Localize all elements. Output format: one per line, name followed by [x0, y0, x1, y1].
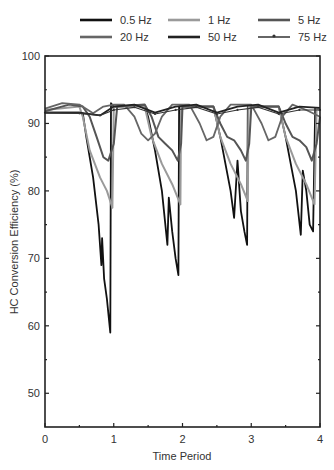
x-tick-label: 2: [179, 433, 185, 445]
x-tick-label: 0: [42, 433, 48, 445]
series-marker: [278, 113, 280, 115]
series-marker: [257, 106, 259, 108]
series-marker: [99, 114, 101, 116]
series-marker: [195, 106, 197, 108]
legend-item: 75 Hz: [258, 31, 327, 43]
legend: 0.5 Hz1 Hz5 Hz20 Hz50 Hz75 Hz: [80, 14, 327, 43]
legend-item: 5 Hz: [258, 14, 321, 26]
legend-label: 75 Hz: [298, 31, 327, 43]
x-tick-label: 1: [111, 433, 117, 445]
series-marker: [175, 109, 177, 111]
legend-item: 0.5 Hz: [80, 14, 152, 26]
legend-item: 50 Hz: [168, 31, 237, 43]
legend-label: 0.5 Hz: [120, 14, 152, 26]
legend-item: 1 Hz: [168, 14, 231, 26]
legend-label: 50 Hz: [208, 31, 237, 43]
series-marker: [78, 112, 80, 114]
y-tick-label: 100: [22, 50, 40, 62]
x-tick-label: 4: [317, 433, 323, 445]
series-marker: [216, 113, 218, 115]
series-marker: [113, 109, 115, 111]
series-marker: [133, 106, 135, 108]
series-marker: [154, 113, 156, 115]
legend-label: 5 Hz: [298, 14, 321, 26]
series-marker: [236, 109, 238, 111]
series-marker: [298, 109, 300, 111]
y-tick-label: 60: [28, 320, 40, 332]
y-tick-label: 90: [28, 117, 40, 129]
x-axis-title: Time Period: [153, 450, 212, 462]
y-axis-title: HC Conversion Efficiency (%): [8, 170, 20, 315]
y-tick-label: 80: [28, 185, 40, 197]
legend-item: 20 Hz: [80, 31, 149, 43]
y-tick-label: 50: [28, 387, 40, 399]
y-tick-label: 70: [28, 252, 40, 264]
legend-label: 1 Hz: [208, 14, 231, 26]
x-tick-label: 3: [248, 433, 254, 445]
legend-label: 20 Hz: [120, 31, 149, 43]
series-layer: [44, 103, 321, 332]
chart: 0.5 Hz1 Hz5 Hz20 Hz50 Hz75 Hz 01234 5060…: [0, 0, 334, 470]
